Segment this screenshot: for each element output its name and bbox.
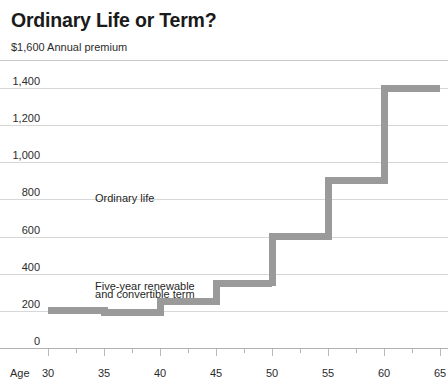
step-riser — [325, 177, 332, 240]
x-tick-mark-minor — [356, 349, 357, 353]
x-tick-label: 65 — [434, 367, 446, 379]
x-tick-mark — [48, 349, 49, 356]
x-tick-mark-minor — [412, 349, 413, 353]
x-tick-mark-minor — [76, 349, 77, 353]
x-tick-label: 60 — [378, 367, 390, 379]
y-tick-label: 800 — [2, 186, 40, 198]
annotation-ordinary-life: Ordinary life — [95, 191, 154, 206]
step-tread — [104, 309, 160, 316]
x-tick-mark — [104, 349, 105, 356]
page-title: Ordinary Life or Term? — [11, 9, 216, 32]
step-tread — [328, 177, 384, 184]
x-tick-mark — [216, 349, 217, 356]
step-tread — [384, 85, 440, 92]
y-tick-label: 0 — [2, 335, 40, 347]
x-tick-mark — [328, 349, 329, 356]
x-tick-mark — [160, 349, 161, 356]
y-tick-label: 1,000 — [2, 149, 40, 161]
gridline — [0, 199, 448, 200]
y-tick-label: 600 — [2, 224, 40, 236]
x-axis-label: Age — [10, 367, 30, 379]
x-tick-mark — [272, 349, 273, 356]
step-tread — [48, 307, 104, 314]
gridline — [0, 348, 448, 349]
x-tick-label: 55 — [322, 367, 334, 379]
chart-subtitle: $1,600 Annual premium — [11, 41, 127, 53]
y-tick-label: 1,400 — [2, 75, 40, 87]
gridline — [0, 237, 448, 238]
y-tick-label: 1,200 — [2, 112, 40, 124]
annotation-term-line2: and convertible term — [95, 287, 195, 302]
x-tick-mark-minor — [188, 349, 189, 353]
x-tick-mark — [440, 349, 441, 356]
x-tick-label: 45 — [210, 367, 222, 379]
step-tread — [272, 233, 328, 240]
y-tick-label: 400 — [2, 261, 40, 273]
x-tick-label: 30 — [42, 367, 54, 379]
x-tick-label: 35 — [98, 367, 110, 379]
x-tick-mark-minor — [244, 349, 245, 353]
chart-page: Ordinary Life or Term? $1,600 Annual pre… — [0, 0, 448, 387]
x-tick-mark-minor — [132, 349, 133, 353]
x-tick-label: 40 — [154, 367, 166, 379]
gridline — [0, 274, 448, 275]
y-tick-label: 200 — [2, 298, 40, 310]
step-riser — [269, 233, 276, 286]
x-tick-mark-minor — [300, 349, 301, 353]
x-tick-mark — [384, 349, 385, 356]
x-tick-label: 50 — [266, 367, 278, 379]
step-tread — [216, 280, 272, 287]
step-riser — [381, 85, 388, 185]
